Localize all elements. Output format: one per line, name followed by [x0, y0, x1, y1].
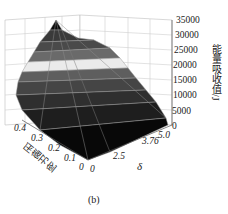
z-tick: 25000 [174, 45, 198, 55]
z-tick: 20000 [173, 60, 197, 70]
x-tick: 0 [90, 164, 95, 174]
z-tick: 10000 [173, 90, 197, 100]
x-axis-label: δ [137, 160, 142, 172]
z-tick: 5000 [172, 106, 191, 116]
z-tick: 0 [172, 121, 177, 131]
z-tick: 35000 [176, 15, 200, 25]
surface-chart: 35000 30000 25000 20000 15000 10000 5000… [0, 0, 228, 214]
z-tick: 15000 [173, 75, 197, 85]
y-tick: 0.2 [48, 143, 60, 153]
figure-caption: (b) [88, 194, 100, 205]
x-tick: 5.0 [158, 130, 170, 140]
y-tick: 0.4 [14, 123, 26, 133]
y-tick: 0 [79, 162, 84, 172]
y-tick: 0.1 [64, 153, 76, 163]
x-tick: 3.76 [142, 136, 159, 146]
z-axis-label: 能量吸收值/J [208, 44, 223, 101]
x-tick: 2.5 [113, 151, 125, 161]
z-tick: 30000 [175, 30, 199, 40]
